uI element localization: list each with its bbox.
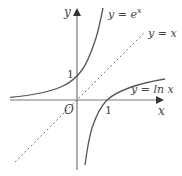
- y-axis-label: y: [63, 5, 71, 19]
- function-graph: y x O 1 1 y = ex y = x y = ln x: [0, 0, 182, 176]
- x-axis-label: x: [158, 104, 165, 118]
- log-curve-label: y = ln x: [130, 83, 175, 96]
- identity-line-label: y = x: [147, 27, 177, 40]
- y-tick-label: 1: [67, 68, 74, 81]
- exp-curve: [10, 8, 103, 97]
- exp-curve-label: y = ex: [107, 6, 142, 21]
- identity-line: [15, 32, 145, 162]
- origin-label: O: [64, 103, 74, 117]
- x-tick-label: 1: [105, 104, 112, 117]
